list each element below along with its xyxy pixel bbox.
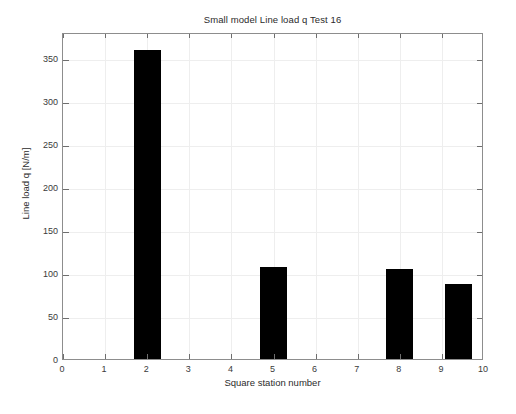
y-tick-mark (63, 189, 69, 190)
x-tick-mark-top (147, 34, 148, 38)
chart-title: Small model Line load q Test 16 (62, 14, 483, 25)
x-tick-mark (442, 354, 443, 359)
x-axis-tick-labels: 012345678910 (62, 364, 483, 378)
x-tick-mark (358, 354, 359, 359)
y-tick-mark (63, 275, 69, 276)
gridline-horizontal (63, 146, 482, 147)
x-tick-mark-top (105, 34, 106, 38)
y-tick-mark (63, 318, 69, 319)
x-tick-mark-top (400, 34, 401, 38)
x-tick-label: 0 (59, 364, 64, 374)
x-tick-mark-top (358, 34, 359, 38)
y-tick-mark-right (477, 103, 482, 104)
x-tick-label: 9 (438, 364, 443, 374)
x-tick-mark (147, 354, 148, 359)
y-tick-label: 50 (48, 312, 58, 322)
y-tick-mark-right (477, 232, 482, 233)
x-tick-mark-top (316, 34, 317, 38)
bar-station-5 (260, 267, 287, 360)
x-tick-label: 2 (144, 364, 149, 374)
plot-area (62, 33, 483, 360)
y-tick-mark-right (477, 189, 482, 190)
y-tick-mark-right (477, 146, 482, 147)
gridline-vertical (316, 34, 317, 359)
x-tick-mark (274, 354, 275, 359)
y-tick-label: 300 (43, 97, 58, 107)
x-tick-mark-top (274, 34, 275, 38)
x-axis-title: Square station number (62, 377, 483, 388)
y-tick-mark (63, 60, 69, 61)
x-tick-label: 8 (396, 364, 401, 374)
gridline-vertical (189, 34, 190, 359)
y-tick-mark-right (477, 60, 482, 61)
y-tick-mark (63, 232, 69, 233)
bar-station-2 (134, 50, 161, 360)
gridline-horizontal (63, 232, 482, 233)
x-tick-label: 7 (354, 364, 359, 374)
gridline-vertical (442, 34, 443, 359)
x-tick-mark (63, 354, 64, 359)
bar-station-8 (386, 269, 413, 360)
gridline-horizontal (63, 103, 482, 104)
y-tick-mark (63, 103, 69, 104)
y-tick-label: 100 (43, 269, 58, 279)
bar-station-9 (445, 284, 472, 360)
x-tick-mark (316, 354, 317, 359)
y-tick-mark-right (477, 318, 482, 319)
gridline-vertical (105, 34, 106, 359)
x-tick-mark (231, 354, 232, 359)
y-tick-mark (63, 146, 69, 147)
gridline-vertical (231, 34, 232, 359)
x-tick-label: 3 (186, 364, 191, 374)
y-tick-label: 0 (53, 355, 58, 365)
x-tick-label: 1 (102, 364, 107, 374)
x-tick-mark (189, 354, 190, 359)
gridline-horizontal (63, 60, 482, 61)
y-tick-label: 250 (43, 140, 58, 150)
x-tick-label: 5 (270, 364, 275, 374)
x-tick-label: 10 (478, 364, 488, 374)
x-tick-label: 4 (228, 364, 233, 374)
x-tick-mark (105, 354, 106, 359)
y-tick-label: 200 (43, 183, 58, 193)
y-tick-label: 350 (43, 54, 58, 64)
chart-figure: Small model Line load q Test 16 05010015… (0, 0, 516, 414)
x-tick-mark-top (63, 34, 64, 38)
gridline-vertical (358, 34, 359, 359)
x-tick-mark (400, 354, 401, 359)
x-tick-mark-top (231, 34, 232, 38)
x-tick-mark-top (189, 34, 190, 38)
y-axis-title: Line load q [N/m] (20, 114, 31, 254)
y-tick-mark-right (477, 275, 482, 276)
x-tick-label: 6 (312, 364, 317, 374)
y-tick-label: 150 (43, 226, 58, 236)
x-tick-mark-top (442, 34, 443, 38)
gridline-horizontal (63, 189, 482, 190)
